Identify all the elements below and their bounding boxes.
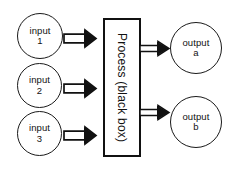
node-output-b[interactable]: output b	[170, 96, 222, 148]
node-output-b-label-bottom: b	[193, 122, 198, 132]
node-input-3[interactable]: input 3	[17, 111, 62, 156]
diagram-canvas: input 1 input 2 input 3 Process (black b…	[0, 0, 229, 172]
node-input-2-label-bottom: 2	[37, 86, 42, 96]
node-input-1-label-top: input	[29, 26, 50, 36]
node-input-3-label-top: input	[29, 123, 50, 133]
arrow-input-2	[64, 79, 104, 98]
node-output-b-label-top: output	[182, 112, 209, 122]
node-process-box[interactable]: Process (black box)	[103, 18, 141, 157]
node-input-2[interactable]: input 2	[17, 63, 62, 108]
node-input-1[interactable]: input 1	[17, 13, 63, 59]
process-box-label: Process (black box)	[115, 33, 129, 142]
node-input-3-label-bottom: 3	[37, 134, 42, 144]
node-output-a[interactable]: output a	[170, 22, 222, 74]
node-output-a-label-top: output	[182, 38, 209, 48]
arrow-input-1	[64, 29, 104, 48]
node-input-2-label-top: input	[29, 75, 50, 85]
node-output-a-label-bottom: a	[193, 48, 198, 58]
node-input-1-label-bottom: 1	[37, 36, 42, 46]
arrow-input-3	[64, 126, 104, 145]
